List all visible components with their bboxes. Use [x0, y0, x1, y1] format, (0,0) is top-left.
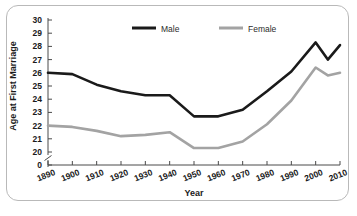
axis-break-mark	[45, 156, 52, 161]
line-chart: Age at First Marriage Year 0202122232425…	[0, 0, 357, 216]
x-tick-label: 1910	[84, 167, 105, 183]
x-tick-label: 1920	[108, 167, 129, 183]
chart-legend: MaleFemale	[132, 24, 277, 34]
x-axis-title: Year	[184, 188, 204, 198]
y-tick-label: 22	[33, 121, 43, 131]
y-tick-label: 0	[37, 160, 42, 170]
y-tick-label: 24	[33, 94, 43, 104]
y-tick-label: 28	[33, 41, 43, 51]
x-axis: 1890190019101920193019401950196019701980…	[35, 161, 348, 183]
x-tick-label: 1980	[254, 167, 275, 183]
y-tick-label: 27	[33, 55, 43, 65]
y-tick-label: 29	[33, 28, 43, 38]
y-tick-label: 30	[33, 15, 43, 25]
series-line-male	[48, 42, 340, 116]
x-tick-label: 1990	[279, 167, 300, 183]
legend-label-male: Male	[161, 24, 180, 34]
x-tick-label: 2010	[327, 167, 348, 183]
x-tick-label: 1900	[60, 167, 81, 183]
legend-label-female: Female	[248, 24, 277, 34]
series-line-female	[48, 68, 340, 149]
y-tick-label: 20	[33, 147, 43, 157]
y-axis: 02021222324252627282930	[33, 15, 52, 170]
x-tick-label: 1960	[206, 167, 227, 183]
chart-figure: Age at First Marriage Year 0202122232425…	[0, 0, 357, 216]
x-tick-label: 1950	[181, 167, 202, 183]
y-axis-title: Age at First Marriage	[8, 41, 18, 131]
y-tick-label: 25	[33, 81, 43, 91]
data-series	[48, 42, 340, 148]
y-tick-label: 23	[33, 107, 43, 117]
x-tick-label: 2000	[303, 167, 324, 183]
x-tick-label: 1930	[133, 167, 154, 183]
x-tick-label: 1970	[230, 167, 251, 183]
y-tick-label: 26	[33, 68, 43, 78]
y-tick-label: 21	[33, 134, 43, 144]
x-tick-label: 1940	[157, 167, 178, 183]
